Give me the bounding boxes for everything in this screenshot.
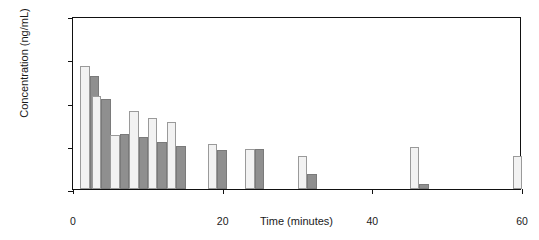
bar-light: [245, 149, 255, 189]
y-tick-mark: [68, 61, 73, 62]
x-axis-title: Time (minutes): [72, 215, 521, 227]
bar-light: [167, 122, 177, 189]
figure: Concentration (ng/mL) Time (minutes) 100…: [0, 0, 539, 240]
x-tick-mark: [73, 189, 74, 194]
bar-light: [208, 144, 218, 189]
bar-light: [410, 147, 420, 189]
bar-light: [92, 96, 102, 189]
x-tick-mark: [372, 189, 373, 194]
bar-dark: [255, 149, 265, 189]
x-tick-mark: [522, 189, 523, 194]
bar-light: [298, 156, 308, 189]
bar-dark: [217, 150, 227, 189]
bar-dark: [176, 146, 186, 189]
x-tick-label: 40: [352, 215, 392, 227]
y-tick-mark: [68, 148, 73, 149]
plot-area: 1001010.10.01 0204060: [72, 17, 521, 190]
x-tick-label: 20: [203, 215, 243, 227]
bar-dark: [307, 174, 317, 189]
bar-light: [80, 66, 90, 189]
y-tick-mark: [68, 105, 73, 106]
x-tick-label: 60: [502, 215, 539, 227]
x-tick-label: 0: [53, 215, 93, 227]
bar-dark: [157, 142, 167, 189]
bar-dark: [419, 184, 429, 189]
bar-light: [129, 111, 139, 189]
y-tick-mark: [68, 18, 73, 19]
bar-dark: [139, 137, 149, 189]
bar-dark: [101, 99, 111, 189]
y-axis-title: Concentration (ng/mL): [18, 0, 30, 153]
x-tick-mark: [223, 189, 224, 194]
bar-light: [110, 135, 120, 189]
bar-dark: [120, 134, 130, 189]
bar-light: [148, 118, 158, 190]
bar-light: [513, 156, 523, 189]
